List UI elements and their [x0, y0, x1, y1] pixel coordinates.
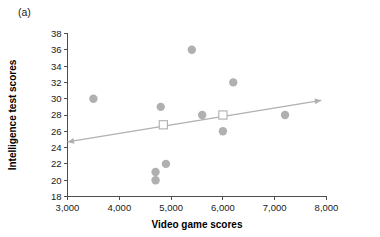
x-tick-label: 6,000: [211, 202, 235, 213]
y-tick-label: 36: [51, 44, 62, 55]
x-axis-title: Video game scores: [152, 219, 243, 230]
data-point-circle: [281, 111, 289, 119]
data-point-circle: [151, 176, 159, 184]
y-tick-label: 20: [51, 175, 62, 186]
x-tick-label: 4,000: [107, 202, 131, 213]
data-point-circle: [188, 46, 196, 54]
data-point-circle: [219, 127, 227, 135]
y-axis-title: Intelligence test scores: [7, 59, 18, 170]
x-tick-label: 3,000: [56, 202, 80, 213]
data-point-circle: [89, 95, 97, 103]
data-point-square: [159, 121, 167, 129]
y-tick-label: 18: [51, 191, 62, 202]
data-point-circle: [198, 111, 206, 119]
trend-line-arrow-right: [314, 98, 321, 104]
data-point-circle: [229, 78, 237, 86]
y-tick-label: 28: [51, 109, 62, 120]
data-point-circle: [151, 168, 159, 176]
data-point-circle: [162, 160, 170, 168]
y-tick-label: 22: [51, 158, 62, 169]
data-point-square: [219, 111, 227, 119]
scatter-plot: 18202224262830323436383,0004,0005,0006,0…: [0, 0, 380, 237]
x-tick-label: 5,000: [159, 202, 183, 213]
y-tick-label: 26: [51, 126, 62, 137]
trend-line: [68, 100, 322, 142]
x-tick-label: 7,000: [263, 202, 287, 213]
figure-container: (a) 18202224262830323436383,0004,0005,00…: [0, 0, 380, 237]
data-point-circle: [157, 103, 165, 111]
y-tick-label: 24: [51, 142, 62, 153]
y-tick-label: 32: [51, 77, 62, 88]
y-tick-label: 30: [51, 93, 62, 104]
y-tick-label: 34: [51, 61, 62, 72]
y-tick-label: 38: [51, 28, 62, 39]
trend-line-arrow-left: [68, 138, 75, 144]
x-tick-label: 8,000: [315, 202, 339, 213]
